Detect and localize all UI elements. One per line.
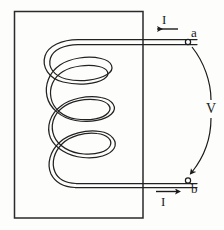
terminal-dots — [185, 39, 190, 183]
terminal-label-b: b — [191, 182, 198, 195]
current-label-top: I — [162, 13, 166, 26]
current-label-bottom: I — [161, 195, 165, 208]
terminal-circle-a — [185, 39, 190, 44]
voltage-label: V — [206, 102, 216, 116]
figure-canvas: a b I I V — [0, 0, 224, 230]
terminal-circle-b — [185, 178, 190, 183]
coil-winding — [44, 40, 197, 188]
terminal-label-a: a — [191, 26, 197, 39]
